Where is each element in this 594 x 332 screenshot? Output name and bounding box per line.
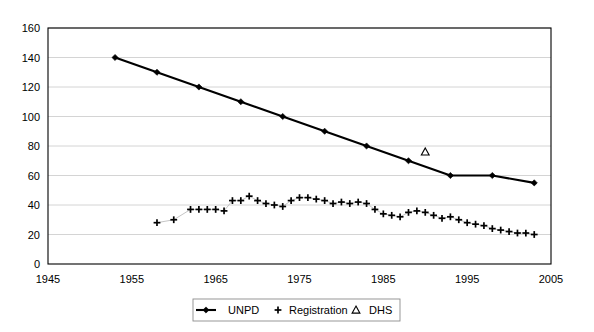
legend-label: UNPD — [228, 304, 259, 316]
y-tick-label: 40 — [28, 199, 40, 211]
line-chart: 020406080100120140160 194519551965197519… — [0, 0, 594, 332]
y-tick-label: 0 — [34, 258, 40, 270]
y-tick-label: 60 — [28, 170, 40, 182]
y-tick-label: 160 — [22, 22, 40, 34]
x-tick-label: 1965 — [203, 273, 227, 285]
legend-label: DHS — [369, 304, 392, 316]
x-tick-label: 1955 — [120, 273, 144, 285]
y-tick-label: 120 — [22, 81, 40, 93]
x-tick-label: 1975 — [287, 273, 311, 285]
y-tick-label: 80 — [28, 140, 40, 152]
x-tick-label: 1945 — [36, 273, 60, 285]
x-tick-label: 2005 — [539, 273, 563, 285]
x-tick-label: 1985 — [371, 273, 395, 285]
y-tick-label: 140 — [22, 52, 40, 64]
y-tick-label: 20 — [28, 229, 40, 241]
x-tick-label: 1995 — [455, 273, 479, 285]
y-tick-label: 100 — [22, 111, 40, 123]
chart-container: 020406080100120140160 194519551965197519… — [0, 0, 594, 332]
chart-legend: UNPDRegistrationDHS — [193, 299, 400, 321]
legend-label: Registration — [289, 304, 348, 316]
